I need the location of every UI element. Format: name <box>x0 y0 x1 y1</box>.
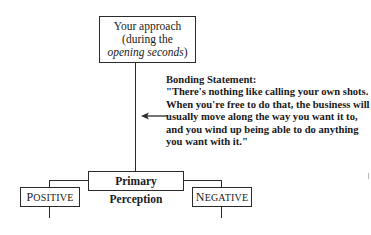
opening-seconds-text: opening seconds <box>107 46 183 58</box>
connector-left-down <box>49 180 50 187</box>
arrow-left-icon <box>141 111 167 121</box>
edge-mark <box>368 173 369 179</box>
connector-right-down <box>221 180 222 187</box>
negative-label: EGATIVE <box>205 192 249 203</box>
connector-top-to-primary <box>135 63 136 171</box>
bonding-statement: Bonding Statement: "There's nothing like… <box>166 74 371 148</box>
bonding-statement-title: Bonding Statement: <box>166 74 371 86</box>
connector-primary-left <box>49 180 88 181</box>
positive-label: OSITIVE <box>33 192 73 203</box>
connector-negative-down <box>221 207 222 218</box>
positive-box: POSITIVE <box>20 187 80 207</box>
connector-positive-down <box>49 207 50 218</box>
top-box-line2: (during the <box>100 33 195 46</box>
negative-box: NEGATIVE <box>192 187 252 207</box>
top-box-line1: Your approach <box>100 20 195 33</box>
primary-perception-box: Primary Perception <box>88 171 184 191</box>
bonding-statement-quote: "There's nothing like calling your own s… <box>166 86 371 148</box>
primary-perception-label: Primary Perception <box>110 175 163 205</box>
connector-primary-right <box>184 180 222 181</box>
your-approach-box: Your approach (during the opening second… <box>99 16 196 63</box>
top-box-line3: opening seconds) <box>100 46 195 59</box>
